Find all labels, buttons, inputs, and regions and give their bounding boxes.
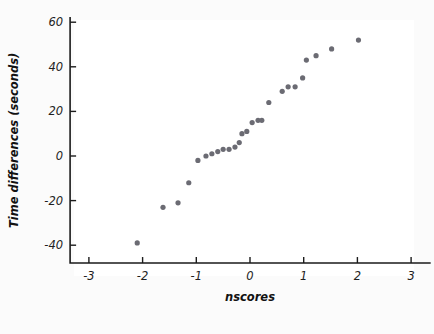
qq-plot-figure: -3-2-10123 -40-200204060 nscores Time di… — [0, 0, 434, 334]
x-axis-title: nscores — [225, 290, 275, 304]
data-point — [237, 140, 242, 145]
data-point — [232, 144, 237, 149]
y-tick-label: 60 — [48, 15, 63, 29]
data-point — [239, 131, 244, 136]
x-tick-label: -1 — [191, 269, 202, 283]
data-point — [195, 158, 200, 163]
y-tick-label: 40 — [48, 60, 63, 74]
data-point — [300, 75, 305, 80]
data-point — [304, 58, 309, 63]
data-point — [286, 84, 291, 89]
y-tick-label: -20 — [44, 194, 63, 208]
data-point — [203, 153, 208, 158]
data-point — [356, 37, 361, 42]
data-point — [293, 84, 298, 89]
x-tick-label: 0 — [246, 269, 253, 283]
x-tick-label: -3 — [83, 269, 94, 283]
x-tick-label: -2 — [137, 269, 148, 283]
data-point — [313, 53, 318, 58]
data-point — [209, 151, 214, 156]
y-tick-label: 20 — [48, 104, 63, 118]
data-point — [329, 46, 334, 51]
scatter-plot-svg: -3-2-10123 -40-200204060 nscores Time di… — [0, 0, 434, 334]
data-point — [226, 147, 231, 152]
data-point — [186, 180, 191, 185]
y-axis-title: Time differences (seconds) — [7, 53, 21, 228]
y-tick-label: -40 — [44, 238, 63, 252]
x-tick-label: 2 — [354, 269, 361, 283]
data-point — [250, 120, 255, 125]
data-point — [266, 100, 271, 105]
y-axis-tick-group: -40-200204060 — [44, 15, 76, 252]
data-point — [160, 205, 165, 210]
data-point — [259, 118, 264, 123]
data-point — [175, 200, 180, 205]
y-tick-label: 0 — [56, 149, 63, 163]
data-point — [135, 240, 140, 245]
x-tick-label: 3 — [407, 269, 414, 283]
data-point — [221, 147, 226, 152]
plot-area-background — [74, 20, 414, 276]
data-point — [244, 129, 249, 134]
data-point — [280, 89, 285, 94]
data-point — [215, 149, 220, 154]
x-tick-label: 1 — [300, 269, 307, 283]
